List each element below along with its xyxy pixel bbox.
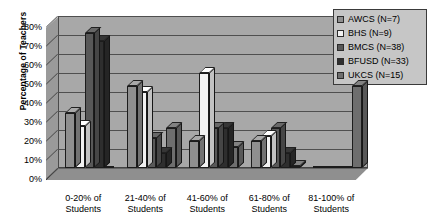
- bar-side-face: [156, 132, 162, 168]
- bar-side-face: [218, 122, 224, 167]
- legend-item-label: BHS (N=9): [348, 29, 392, 38]
- legend-color-swatch: [337, 44, 344, 51]
- legend-color-swatch: [337, 58, 344, 65]
- bar: [323, 167, 333, 168]
- legend-item: BHS (N=9): [334, 26, 426, 40]
- y-axis-tick-label: 20%: [14, 137, 42, 146]
- legend-color-swatch: [337, 72, 344, 79]
- legend-item-label: UKCS (N=15): [348, 71, 403, 80]
- bar: [333, 167, 343, 168]
- x-axis-tick-label: 81-100% ofStudents: [293, 193, 369, 215]
- bar-front-face: [333, 166, 343, 168]
- bar-front-face: [65, 113, 75, 168]
- bar-side-face: [362, 81, 368, 168]
- bar: [342, 167, 352, 168]
- bar-front-face: [342, 166, 352, 168]
- bar: [313, 167, 323, 168]
- bar-side-face: [75, 107, 81, 168]
- y-axis-tick-label: 60%: [14, 61, 42, 70]
- bar-side-face: [199, 136, 205, 168]
- bar: [352, 86, 362, 168]
- legend-item: UKCS (N=15): [334, 68, 426, 82]
- bar-front-face: [189, 141, 199, 168]
- bar-side-face: [147, 86, 153, 168]
- y-axis-tick-label: 10%: [14, 156, 42, 165]
- legend-item-label: BMCS (N=38): [348, 43, 404, 52]
- bar-side-face: [261, 136, 267, 168]
- chart-container: Percentage of Teachers 80%70%60%50%40%30…: [0, 0, 430, 217]
- bar: [251, 141, 261, 168]
- legend-color-swatch: [337, 16, 344, 23]
- bar-front-face: [323, 166, 333, 168]
- y-axis-tick-label: 80%: [14, 23, 42, 32]
- bar: [104, 167, 114, 168]
- bar-side-face: [228, 122, 234, 167]
- bar-side-face: [137, 81, 143, 168]
- bar-side-face: [176, 122, 182, 167]
- bar-side-face: [104, 35, 110, 168]
- chart-legend: AWCS (N=7)BHS (N=9)BMCS (N=38)BFUSD (N=3…: [333, 9, 427, 85]
- bar-side-face: [85, 121, 91, 168]
- legend-color-swatch: [337, 30, 344, 37]
- bar-side-face: [271, 130, 277, 168]
- bar: [65, 113, 75, 168]
- bar-side-face: [94, 27, 100, 167]
- legend-item-label: AWCS (N=7): [348, 15, 400, 24]
- plot-area: [46, 16, 368, 180]
- legend-item: AWCS (N=7): [334, 12, 426, 26]
- y-axis-tick-label: 0%: [14, 175, 42, 184]
- legend-item-label: BFUSD (N=33): [348, 57, 409, 66]
- bar-front-face: [352, 86, 362, 168]
- bar-front-face: [251, 141, 261, 168]
- y-axis-tick-label: 70%: [14, 42, 42, 51]
- bar-side-face: [209, 67, 215, 168]
- y-axis-tick-label: 30%: [14, 118, 42, 127]
- legend-item: BFUSD (N=33): [334, 54, 426, 68]
- y-axis-tick-label: 40%: [14, 99, 42, 108]
- bar-front-face: [313, 166, 323, 168]
- bar: [189, 141, 199, 168]
- legend-item: BMCS (N=38): [334, 40, 426, 54]
- bar-front-face: [127, 86, 137, 168]
- bar: [127, 86, 137, 168]
- bars-layer: [46, 16, 368, 180]
- y-axis-tick-label: 50%: [14, 80, 42, 89]
- bar-side-face: [238, 141, 244, 167]
- bar-side-face: [280, 122, 286, 167]
